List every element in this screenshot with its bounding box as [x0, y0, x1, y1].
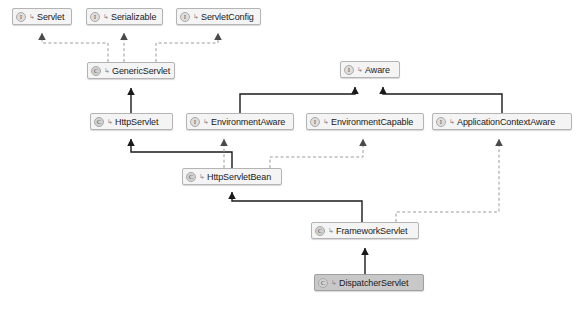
interface-icon: I [344, 65, 354, 75]
interface-icon: I [16, 12, 26, 22]
edge-environmentaware-extends-aware [240, 87, 355, 113]
node-aware[interactable]: I ↳ Aware [340, 61, 400, 78]
member-arrow-icon: ↳ [192, 12, 199, 21]
member-arrow-icon: ↳ [356, 65, 363, 74]
node-label: Servlet [37, 12, 64, 22]
node-httpservlet[interactable]: C ↳ HttpServlet [90, 113, 173, 130]
member-arrow-icon: ↳ [103, 66, 110, 75]
node-label: Serializable [111, 12, 156, 22]
edge-httpservletbean-implements-environmentcapable [270, 139, 363, 168]
node-environmentaware[interactable]: I ↳ EnvironmentAware [186, 113, 294, 130]
member-arrow-icon: ↳ [330, 278, 337, 287]
node-servletconfig[interactable]: I ↳ ServletConfig [176, 8, 261, 25]
edge-httpservletbean-extends-httpservlet [131, 139, 232, 168]
node-label: ApplicationContextAware [457, 117, 555, 127]
node-environmentcapable[interactable]: I ↳ EnvironmentCapable [306, 113, 424, 130]
class-icon: C [91, 66, 101, 76]
node-label: EnvironmentAware [211, 117, 285, 127]
member-arrow-icon: ↳ [322, 117, 329, 126]
node-servlet[interactable]: I ↳ Servlet [12, 8, 72, 25]
member-arrow-icon: ↳ [198, 172, 205, 181]
node-label: Aware [365, 65, 390, 75]
interface-icon: I [310, 117, 320, 127]
interface-icon: I [436, 117, 446, 127]
edge-applicationcontextaware-extends-aware [383, 87, 502, 113]
node-serializable[interactable]: I ↳ Serializable [86, 8, 163, 25]
class-icon: C [186, 172, 196, 182]
member-arrow-icon: ↳ [202, 117, 209, 126]
member-arrow-icon: ↳ [327, 226, 334, 235]
edge-genericservlet-implements-servletconfig [156, 33, 218, 62]
member-arrow-icon: ↳ [28, 12, 35, 21]
edge-frameworkservlet-extends-httpservletbean [232, 192, 362, 222]
relationship-edge-layer [0, 0, 576, 309]
node-label: EnvironmentCapable [331, 117, 413, 127]
edge-genericservlet-implements-servlet [42, 33, 108, 62]
member-arrow-icon: ↳ [448, 117, 455, 126]
uml-class-diagram: I ↳ Servlet I ↳ Serializable I ↳ Servlet… [0, 0, 576, 309]
member-arrow-icon: ↳ [106, 117, 113, 126]
node-label: ServletConfig [201, 12, 254, 22]
interface-icon: I [90, 12, 100, 22]
node-frameworkservlet[interactable]: C ↳ FrameworkServlet [311, 222, 419, 239]
class-icon: C [318, 278, 328, 288]
node-label: HttpServletBean [207, 172, 271, 182]
interface-icon: I [190, 117, 200, 127]
edge-frameworkservlet-implements-applicationcontextaware [396, 139, 499, 222]
node-label: GenericServlet [112, 66, 170, 76]
node-label: HttpServlet [115, 117, 158, 127]
node-httpservletbean[interactable]: C ↳ HttpServletBean [182, 168, 282, 185]
node-label: FrameworkServlet [336, 226, 407, 236]
node-label: DispatcherServlet [339, 278, 408, 288]
node-genericservlet[interactable]: C ↳ GenericServlet [87, 62, 175, 79]
node-applicationcontextaware[interactable]: I ↳ ApplicationContextAware [432, 113, 572, 130]
node-dispatcherservlet[interactable]: C ↳ DispatcherServlet [314, 274, 424, 291]
class-icon: C [315, 226, 325, 236]
class-icon: C [94, 117, 104, 127]
interface-icon: I [180, 12, 190, 22]
member-arrow-icon: ↳ [102, 12, 109, 21]
